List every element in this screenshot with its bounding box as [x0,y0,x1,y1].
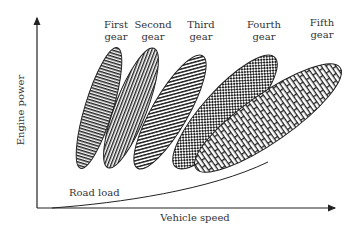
gear-label-fifth: Fifth [310,17,335,28]
gear-label-first-sub: gear [104,31,127,42]
gear-label-second: Second [134,19,172,30]
gear-label-fourth-sub: gear [252,31,275,42]
gear-label-third-sub: gear [189,31,212,42]
road-load-curve [52,162,268,208]
gear-label-third: Third [187,19,215,30]
road-load-label: Road load [69,187,120,198]
gear-label-first: First [104,19,128,30]
gear-label-fourth: Fourth [247,19,282,30]
gear-label-fifth-sub: gear [310,29,333,40]
x-axis-label: Vehicle speed [159,212,230,223]
gear-label-second-sub: gear [141,31,164,42]
gear-power-diagram: First gear Second gear Third gear Fourth… [0,0,363,236]
y-axis-label: Engine power [15,75,26,146]
